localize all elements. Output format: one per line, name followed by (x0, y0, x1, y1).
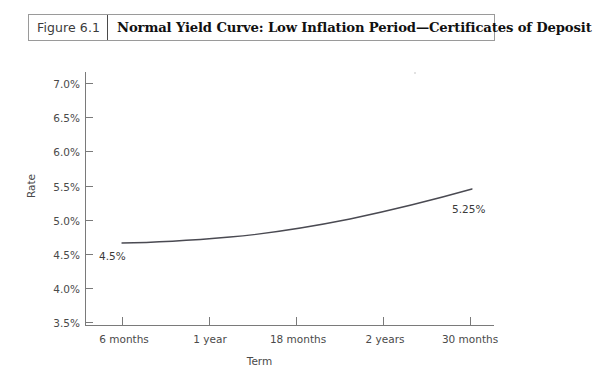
y-tick-label: 5.5% (34, 181, 80, 193)
scan-artifact-speck (414, 72, 416, 74)
y-tick-label: 4.0% (34, 283, 80, 295)
y-tick-label: 4.5% (34, 249, 80, 261)
y-tick-label: 6.5% (34, 112, 80, 124)
x-tick-label-1: 1 year (193, 333, 226, 345)
y-tick-label: 3.5% (34, 317, 80, 329)
y-tick-label: 6.0% (34, 146, 80, 158)
yield-curve-line (122, 189, 472, 243)
x-tick-label-0: 6 months (99, 333, 149, 345)
x-axis-title: Term (0, 355, 519, 367)
x-axis-ticks (123, 317, 471, 325)
data-label-start: 4.5% (99, 250, 126, 262)
y-tick-label: 7.0% (34, 78, 80, 90)
x-tick-label-4: 30 months (442, 333, 498, 345)
data-label-end: 5.25% (452, 203, 485, 215)
x-tick-label-2: 18 months (270, 333, 326, 345)
y-axis-ticks (86, 84, 93, 323)
x-tick-label-3: 2 years (366, 333, 405, 345)
y-tick-label: 5.0% (34, 215, 80, 227)
y-axis-title: Rate (25, 184, 37, 198)
